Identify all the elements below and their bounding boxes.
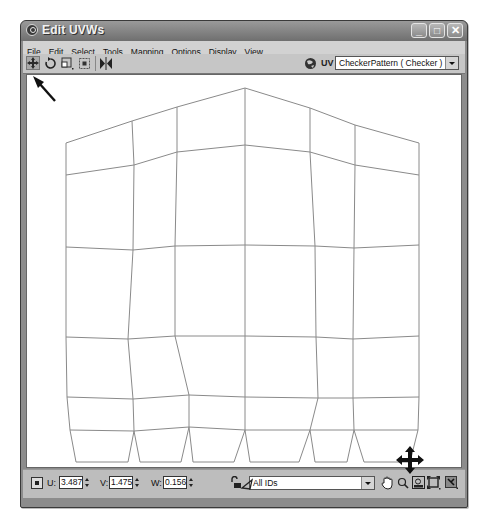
pan-button[interactable] [380, 475, 394, 490]
top-toolbar: UV CheckerPattern ( Checker ) [23, 54, 465, 74]
move-tool-button[interactable] [26, 56, 40, 70]
rotate-tool-button[interactable] [43, 56, 57, 70]
absolute-offset-icon [34, 480, 40, 486]
freeform-icon [78, 57, 91, 70]
uv-label[interactable]: UV [321, 58, 334, 68]
zoom-extents-icon [427, 476, 441, 490]
pan-hand-icon [381, 476, 394, 490]
checker-texture-button[interactable] [303, 56, 317, 70]
w-label: W: [151, 478, 162, 488]
title-bar[interactable]: Edit UVWs _ □ ✕ [21, 21, 467, 41]
bottom-toolbar: U: 3.487 V: 1.475 W: 0.156 All IDs [23, 469, 465, 498]
toolbar-divider [95, 56, 96, 71]
w-spinner[interactable] [188, 476, 195, 489]
mirror-icon [99, 57, 113, 70]
texture-map-value: CheckerPattern ( Checker ) [339, 58, 442, 68]
window-title: Edit UVWs [42, 23, 104, 37]
v-label: V: [100, 478, 108, 488]
w-input[interactable]: 0.156 [163, 476, 187, 489]
scale-icon [61, 57, 74, 70]
v-spinner[interactable] [134, 476, 141, 489]
v-input[interactable]: 1.475 [109, 476, 133, 489]
u-label: U: [47, 478, 56, 488]
chevron-down-icon[interactable] [445, 57, 458, 69]
mirror-tool-button[interactable] [99, 56, 113, 70]
minimize-button[interactable]: _ [411, 23, 427, 38]
u-input[interactable]: 3.487 [59, 476, 83, 489]
chevron-down-icon[interactable] [361, 477, 374, 489]
spacer [229, 475, 243, 490]
rotate-icon [44, 57, 57, 70]
zoom-extents-selected-button[interactable] [444, 475, 458, 490]
zoom-region-button[interactable] [411, 475, 425, 490]
close-button[interactable]: ✕ [447, 23, 463, 38]
material-ids-select[interactable]: All IDs [249, 476, 375, 490]
zoom-region-icon [412, 476, 425, 489]
material-ids-value: All IDs [253, 478, 278, 488]
zoom-icon [397, 477, 409, 489]
scale-tool-button[interactable] [60, 56, 74, 70]
edit-uvws-window: Edit UVWs _ □ ✕ FileEditSelectToolsMappi… [20, 20, 468, 508]
move-arrows-icon [27, 57, 39, 69]
uv-viewport[interactable] [26, 74, 462, 468]
u-spinner[interactable] [84, 476, 91, 489]
absolute-offset-toggle[interactable] [31, 477, 43, 489]
texture-map-select[interactable]: CheckerPattern ( Checker ) [335, 56, 459, 70]
app-icon [26, 24, 38, 36]
menu-bar: FileEditSelectToolsMappingOptionsDisplay… [23, 41, 465, 54]
zoom-extents-button[interactable] [427, 475, 441, 490]
freeform-tool-button[interactable] [77, 56, 91, 70]
zoom-button[interactable] [396, 475, 410, 490]
maximize-button[interactable]: □ [429, 23, 445, 38]
zoom-extents-selected-icon [445, 476, 458, 489]
globe-checker-icon [304, 57, 317, 70]
